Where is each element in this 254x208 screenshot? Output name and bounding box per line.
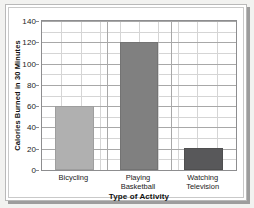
x-tick-label-watching-television: WatchingTelevision (170, 173, 235, 191)
y-tick-mark (36, 127, 39, 128)
x-tick-label-playing-basketball: PlayingBasketball (106, 173, 171, 191)
x-tick-label-line: Basketball (106, 182, 171, 191)
y-tick-label: 120 (22, 38, 36, 47)
plot-area (41, 20, 237, 171)
y-tick-mark (36, 21, 39, 22)
figure-card: Calories Burned in 30 Minutes 0204060801… (5, 4, 247, 201)
x-tick-label-line: Bicycling (41, 173, 106, 182)
x-tick-label-line: Playing (106, 173, 171, 182)
bar-bicycling (55, 106, 94, 170)
y-tick-label: 100 (22, 59, 36, 68)
y-tick-label: 20 (27, 144, 36, 153)
bar-playing-basketball (120, 42, 159, 170)
x-tick-label-bicycling: Bicycling (41, 173, 106, 182)
y-tick-label: 80 (27, 80, 36, 89)
x-axis-title: Type of Activity (41, 192, 237, 201)
bar-watching-television (184, 148, 223, 170)
y-tick-mark (36, 42, 39, 43)
x-tick-label-line: Television (170, 182, 235, 191)
y-tick-mark (36, 106, 39, 107)
y-tick-label: 60 (27, 102, 36, 111)
y-tick-mark (36, 64, 39, 65)
bars-layer (42, 21, 236, 170)
y-tick-mark (36, 85, 39, 86)
chart-frame: Calories Burned in 30 Minutes 0204060801… (8, 7, 244, 198)
y-tick-mark (36, 170, 39, 171)
y-axis-ticks: 020406080100120140 (9, 20, 39, 171)
y-tick-mark (36, 149, 39, 150)
y-tick-label: 40 (27, 123, 36, 132)
x-tick-label-line: Watching (170, 173, 235, 182)
y-tick-label: 140 (22, 17, 36, 26)
figure-root: Calories Burned in 30 Minutes 0204060801… (0, 0, 254, 208)
